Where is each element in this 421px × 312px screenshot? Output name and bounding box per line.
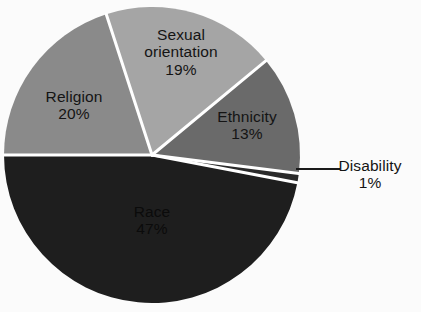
pie-label-ethnicity: Ethnicity 13% xyxy=(192,108,302,143)
pie-label-sexual-orientation-line2: orientation xyxy=(125,43,237,60)
pie-label-disability-name: Disability xyxy=(322,157,418,174)
pie-label-religion-name: Religion xyxy=(22,88,126,105)
pie-label-sexual-orientation-percent: 19% xyxy=(125,61,237,78)
pie-label-race-name: Race xyxy=(104,203,200,220)
pie-label-disability-percent: 1% xyxy=(322,174,418,191)
pie-label-ethnicity-percent: 13% xyxy=(192,125,302,142)
pie-label-race: Race 47% xyxy=(104,203,200,238)
pie-label-religion: Religion 20% xyxy=(22,88,126,123)
pie-label-disability: Disability 1% xyxy=(322,157,418,192)
pie-chart: Sexual orientation 19% Religion 20% Ethn… xyxy=(0,0,421,312)
pie-label-race-percent: 47% xyxy=(104,220,200,237)
pie-label-sexual-orientation: Sexual orientation 19% xyxy=(125,26,237,78)
pie-label-sexual-orientation-line1: Sexual xyxy=(125,26,237,43)
pie-label-ethnicity-name: Ethnicity xyxy=(192,108,302,125)
pie-label-religion-percent: 20% xyxy=(22,105,126,122)
